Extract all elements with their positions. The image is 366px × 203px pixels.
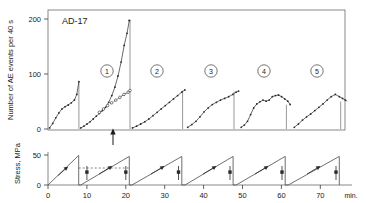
sample-label: AD-17 [62, 16, 88, 26]
cycle-number-2: 2 [151, 65, 163, 77]
top-panel-frame [48, 10, 345, 130]
x-axis-unit-label: min. [344, 192, 357, 199]
xtick-label-70: 70 [316, 191, 324, 200]
cycle-number-4: 4 [258, 65, 270, 77]
xtick-label-40: 40 [199, 191, 207, 200]
ae-curves [50, 21, 348, 128]
ytick-label-0: 0 [37, 125, 41, 134]
bottom-panel-y-axis: 50 0 [33, 151, 48, 190]
ae-curve-cycle-6 [294, 94, 347, 127]
cycle-number-2-label: 2 [155, 68, 159, 75]
ae-curve-cycle-1 [50, 82, 79, 128]
stress-ytick-label-0: 0 [37, 181, 41, 190]
ytick-label-200: 200 [28, 15, 41, 24]
cycle-number-3: 3 [205, 65, 217, 77]
cycle-number-5: 5 [311, 65, 323, 77]
cycle-number-markers: 1 2 3 4 5 [101, 65, 323, 77]
top-panel-y-axis-title: Number of AE events per 40 s [6, 20, 15, 120]
xtick-label-20: 20 [122, 191, 130, 200]
bottom-panel-x-tick-labels: 0 10 20 30 40 50 60 70 min. [46, 191, 358, 200]
arrow-annotation-icon [110, 129, 115, 146]
xtick-label-10: 10 [83, 191, 91, 200]
top-panel: 200 100 0 Number of AE events per 40 s A… [6, 10, 347, 145]
xtick-label-60: 60 [277, 191, 285, 200]
cycle-number-4-label: 4 [262, 68, 266, 75]
cycle-number-3-label: 3 [209, 68, 213, 75]
xtick-label-0: 0 [46, 191, 50, 200]
bottom-panel-x-axis [48, 185, 320, 189]
stress-ytick-label-50: 50 [33, 151, 41, 160]
ae-curve-cycle-5 [241, 95, 290, 127]
cycle-number-1: 1 [101, 65, 113, 77]
cycle-number-5-label: 5 [315, 68, 319, 75]
xtick-label-50: 50 [238, 191, 246, 200]
bottom-panel-y-axis-title: Stress, MPa [13, 142, 22, 184]
ae-data-points [49, 19, 347, 128]
ytick-label-100: 100 [28, 70, 41, 79]
xtick-label-30: 30 [161, 191, 169, 200]
top-panel-y-axis: 200 100 0 [28, 15, 48, 134]
stress-sawtooth-curve [48, 155, 339, 185]
cycle-number-1-label: 1 [105, 68, 109, 75]
acoustic-emission-stress-figure: 200 100 0 Number of AE events per 40 s A… [0, 0, 366, 203]
bottom-panel: 50 0 Stress, MPa 0 10 20 30 40 50 60 70 … [13, 142, 358, 200]
